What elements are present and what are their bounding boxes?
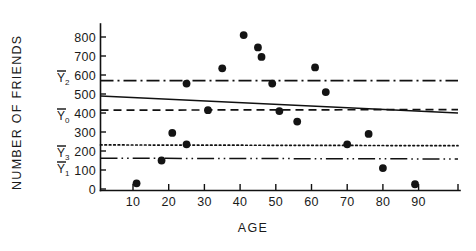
y0-subscript: 0 (65, 116, 70, 125)
reference-line-Y1-mean (101, 158, 459, 159)
y-tick-label-200: 200 (74, 145, 96, 159)
data-point (254, 44, 262, 52)
y-tick-label-500: 500 (74, 88, 96, 102)
data-point (411, 180, 419, 188)
scatter-plot-svg: NUMBER OF FRIENDS AGE 800 700 600 500 40… (0, 0, 476, 251)
data-point (133, 179, 141, 187)
data-point (322, 88, 330, 96)
x-axis-title: AGE (238, 221, 269, 235)
y2-subscript: 2 (65, 78, 70, 87)
mean-label-Y0: Y 0 (57, 109, 70, 125)
y-tick-label-700: 700 (74, 50, 96, 64)
data-point (379, 164, 387, 172)
y-tick-labels: 800 700 600 500 400 300 200 100 0 (74, 31, 96, 197)
x-tick-label-40: 40 (233, 195, 248, 209)
y1-letter: Y (57, 162, 65, 176)
x-tick-label-50: 50 (269, 195, 284, 209)
y-tick-label-300: 300 (74, 126, 96, 140)
y-tick-label-0: 0 (89, 183, 96, 197)
y-tick-label-600: 600 (74, 69, 96, 83)
data-point (343, 140, 351, 148)
x-tick-label-20: 20 (161, 195, 176, 209)
data-point (268, 80, 276, 88)
x-tick-label-10: 10 (126, 195, 141, 209)
mean-label-Y2: Y 2 (57, 71, 70, 87)
data-point (258, 53, 266, 61)
x-tick-label-80: 80 (376, 195, 391, 209)
y1-subscript: 1 (65, 169, 70, 178)
y3-letter: Y (57, 146, 65, 160)
y3-subscript: 3 (65, 153, 70, 162)
y-tick-label-400: 400 (74, 107, 96, 121)
data-point (183, 140, 191, 148)
y-tick-label-800: 800 (74, 31, 96, 45)
x-tick-label-90: 90 (411, 195, 426, 209)
y0-letter: Y (57, 109, 65, 123)
y2-letter: Y (57, 71, 65, 85)
data-point (158, 157, 166, 165)
chart-figure: NUMBER OF FRIENDS AGE 800 700 600 500 40… (0, 0, 476, 251)
x-tick-marks (133, 184, 458, 191)
data-point (240, 31, 248, 39)
mean-annotations: Y 2 Y 0 Y 3 Y 1 (57, 71, 70, 178)
y-tick-marks (101, 37, 107, 189)
data-point (204, 106, 212, 114)
reference-lines-group (101, 81, 459, 159)
mean-label-Y1: Y 1 (57, 162, 70, 178)
x-tick-label-30: 30 (197, 195, 212, 209)
data-point (311, 64, 319, 72)
data-point (218, 64, 226, 72)
y-axis-title: NUMBER OF FRIENDS (10, 35, 24, 190)
data-point (293, 118, 301, 126)
data-point (365, 130, 373, 138)
x-tick-label-60: 60 (304, 195, 319, 209)
reference-line-Y3-mean (101, 145, 459, 146)
data-point (183, 80, 191, 88)
data-point (168, 129, 176, 137)
y-tick-label-100: 100 (74, 164, 96, 178)
x-tick-labels: 10 20 30 40 50 60 70 80 90 (126, 195, 426, 209)
x-tick-label-70: 70 (340, 195, 355, 209)
data-point (275, 107, 283, 115)
mean-label-Y3: Y 3 (57, 146, 70, 162)
